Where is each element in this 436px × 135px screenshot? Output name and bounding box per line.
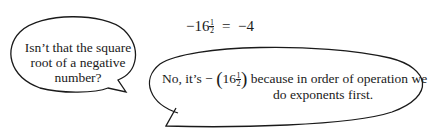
right-bubble-prefix: No, it’s − — [162, 71, 213, 86]
inline-exp-denominator: 2 — [236, 80, 240, 87]
right-bubble-line: No, it’s − (1612) because in order of op… — [150, 71, 420, 87]
equals-sign: = — [222, 18, 230, 34]
left-bubble-line: Isn’t that the square — [18, 40, 138, 55]
left-bubble-line: number? — [18, 70, 138, 85]
right-bubble-line: do exponents first. — [150, 87, 420, 102]
exponent-numerator: 1 — [210, 19, 214, 26]
inline-base: 16 — [222, 71, 236, 86]
inline-exp-numerator: 1 — [236, 72, 240, 79]
equation: −1612 = −4 — [186, 18, 254, 35]
left-bubble-text: Isn’t that the square root of a negative… — [18, 40, 138, 85]
equation-result: −4 — [238, 18, 254, 34]
left-bubble-line: root of a negative — [18, 55, 138, 70]
equation-base: 16 — [194, 18, 209, 34]
exponent-denominator: 2 — [210, 27, 214, 34]
right-bubble-line1-rest: because in order of operation we — [247, 71, 427, 86]
exponent-fraction: 12 — [209, 19, 214, 34]
right-bubble-text: No, it’s − (1612) because in order of op… — [150, 71, 420, 102]
